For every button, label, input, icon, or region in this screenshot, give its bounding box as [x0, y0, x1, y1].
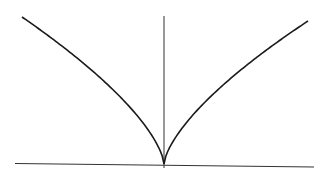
- curve-right-branch: [164, 21, 308, 164]
- curve-left-branch: [22, 17, 164, 164]
- cusp-plot: [0, 0, 329, 181]
